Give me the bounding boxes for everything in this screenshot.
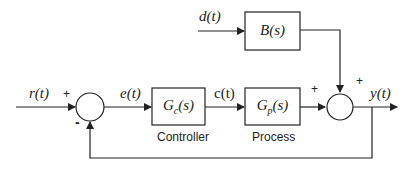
output-signal-label: y(t): [370, 85, 391, 102]
process-caption: Process: [252, 130, 295, 144]
controller-caption: Controller: [157, 130, 209, 144]
right-junction-plus-top-sign: +: [356, 74, 363, 88]
right-summing-junction: [327, 94, 353, 120]
reference-signal-label: r(t): [29, 85, 49, 102]
left-junction-minus-sign: -: [75, 114, 80, 130]
right-junction-plus-left-sign: +: [311, 82, 318, 96]
left-junction-plus-sign: +: [63, 87, 70, 101]
block-diagram-canvas: [0, 0, 411, 170]
disturbance-transfer-function: B(s): [245, 22, 300, 39]
disturbance-signal-label: d(t): [199, 8, 221, 25]
disturbance-output-line: [300, 30, 340, 92]
error-signal-label: e(t): [120, 85, 141, 102]
control-signal-label: c(t): [214, 85, 235, 102]
controller-transfer-function: Gc(s): [152, 97, 205, 116]
left-summing-junction: [76, 93, 104, 121]
process-transfer-function: Gp(s): [245, 97, 300, 116]
